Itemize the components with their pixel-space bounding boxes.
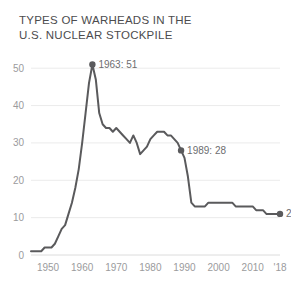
x-tick-label: 1970 <box>105 262 128 273</box>
x-tick-label: 1990 <box>173 262 196 273</box>
annotation-marker-dot <box>277 211 283 217</box>
gridlines <box>31 68 280 255</box>
annotation-label: 1963: 51 <box>98 59 137 70</box>
annotation-marker-dot <box>178 147 184 153</box>
data-line-series <box>31 64 280 251</box>
line-chart-plot: 01020304050 1950196019701980199020002010… <box>0 0 291 282</box>
annotation-label: 2018: 11 <box>286 208 291 219</box>
y-tick-label: 50 <box>13 63 25 74</box>
y-tick-label: 20 <box>13 175 25 186</box>
data-line <box>31 64 280 251</box>
y-tick-label: 40 <box>13 100 25 111</box>
chart-figure: TYPES OF WARHEADS IN THE U.S. NUCLEAR ST… <box>0 0 291 282</box>
x-tick-label: 2000 <box>207 262 230 273</box>
y-axis-tick-labels: 01020304050 <box>13 63 25 261</box>
x-tick-label: 1960 <box>71 262 94 273</box>
x-axis-tick-labels: 1950196019701980199020002010'18 <box>37 262 287 273</box>
annotation-marker-dot <box>89 61 95 67</box>
annotation-label: 1989: 28 <box>187 145 226 156</box>
x-tick-label: 1950 <box>37 262 60 273</box>
x-tick-label: 1980 <box>139 262 162 273</box>
y-tick-label: 30 <box>13 137 25 148</box>
y-tick-label: 0 <box>18 250 24 261</box>
x-tick-label: 2010 <box>242 262 265 273</box>
x-tick-label: '18 <box>273 262 286 273</box>
y-tick-label: 10 <box>13 212 25 223</box>
